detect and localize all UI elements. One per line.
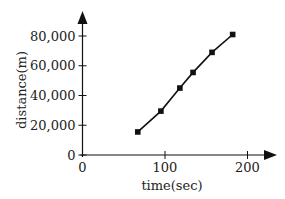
square-marker-icon xyxy=(190,70,196,76)
x-tick-label: 0 xyxy=(78,160,86,175)
square-marker-icon xyxy=(209,50,215,56)
square-marker-icon xyxy=(135,129,141,135)
y-tick-label: 0 xyxy=(67,148,75,163)
y-tick-label: 40,000 xyxy=(30,88,76,103)
square-marker-icon xyxy=(158,108,164,114)
x-tick-label: 200 xyxy=(235,160,260,175)
x-axis-arrow-icon xyxy=(264,150,277,160)
square-marker-icon xyxy=(230,32,236,38)
x-tick-label: 100 xyxy=(153,160,178,175)
y-tick-label: 60,000 xyxy=(30,58,76,73)
y-tick-label: 20,000 xyxy=(30,118,76,133)
data-series xyxy=(135,32,235,135)
ticks: 0100200020,00040,00060,00080,000 xyxy=(30,29,260,176)
y-tick-label: 80,000 xyxy=(30,29,76,44)
y-axis-arrow-icon xyxy=(78,11,88,24)
series-line xyxy=(138,35,233,132)
square-marker-icon xyxy=(177,85,183,91)
y-axis-label: distance(m) xyxy=(14,51,29,129)
distance-time-chart: 0100200020,00040,00060,00080,000 time(se… xyxy=(0,0,285,199)
x-axis-label: time(sec) xyxy=(141,178,202,193)
